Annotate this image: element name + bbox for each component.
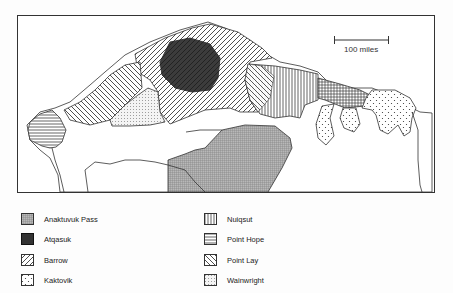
legend-item-point-hope: Point Hope [204,232,264,246]
legend-item-atqasuk: Atqasuk [21,232,71,246]
dark-fill-pattern-icon [21,233,34,245]
legend-label: Kaktovik [44,276,72,285]
legend-label: Barrow [44,256,68,265]
legend-label: Atqasuk [44,235,71,244]
scale-bar-label: 100 miles [344,45,378,54]
legend-item-barrow: Barrow [21,253,68,267]
legend-item-point-lay: Point Lay [204,253,258,267]
legend-label: Nuiqsut [227,215,252,224]
legend-label: Point Lay [227,256,258,265]
legend-item-anaktuvuk-pass: Anaktuvuk Pass [21,212,98,226]
vertical-lines-pattern-icon [204,213,217,225]
legend-item-nuiqsut: Nuiqsut [204,212,252,226]
horizontal-lines-pattern-icon [204,233,217,245]
legend-label: Anaktuvuk Pass [44,215,98,224]
legend-label: Point Hope [227,235,264,244]
legend-item-wainwright: Wainwright [204,273,264,287]
crosshatch-pattern-icon [21,213,34,225]
backward-diagonal-pattern-icon [204,254,217,266]
legend-item-kaktovik: Kaktovik [21,273,72,287]
forward-diagonal-pattern-icon [21,254,34,266]
legend-label: Wainwright [227,276,264,285]
subsistence-area-map [0,0,453,200]
sparse-dots-pattern-icon [21,274,34,286]
fine-dots-pattern-icon [204,274,217,286]
